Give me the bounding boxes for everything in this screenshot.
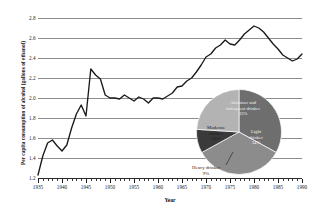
x-axis-major-tick xyxy=(134,179,135,183)
x-axis-minor-tick xyxy=(144,179,145,181)
x-axis-minor-tick xyxy=(168,179,169,181)
x-axis-minor-tick xyxy=(187,179,188,181)
pie-label-heavy-pct: 9% xyxy=(203,171,210,176)
x-axis-minor-tick xyxy=(120,179,121,181)
x-axis-tick-label: 1950 xyxy=(105,184,115,190)
y-axis-tick-label: 2.8 xyxy=(29,15,35,21)
x-axis-minor-tick xyxy=(52,179,53,181)
y-axis-tick-label: 2.6 xyxy=(29,35,35,41)
x-axis-minor-tick xyxy=(100,179,101,181)
x-axis-major-tick xyxy=(302,179,303,183)
x-axis-minor-tick xyxy=(105,179,106,181)
x-axis-minor-tick xyxy=(192,179,193,181)
x-axis-minor-tick xyxy=(297,179,298,181)
x-axis-minor-tick xyxy=(76,179,77,181)
x-axis-tick-label: 1940 xyxy=(57,184,67,190)
x-axis-minor-tick xyxy=(129,179,130,181)
x-axis-minor-tick xyxy=(172,179,173,181)
x-axis-minor-tick xyxy=(177,179,178,181)
pie-label-heavy-drinker: Heavy drinker 9% xyxy=(174,165,238,177)
x-axis-minor-tick xyxy=(81,179,82,181)
y-axis-tick-label: 1.6 xyxy=(29,135,35,141)
x-axis-major-tick xyxy=(158,179,159,183)
x-axis-minor-tick xyxy=(283,179,284,181)
x-axis-minor-tick xyxy=(124,179,125,181)
x-axis-minor-tick xyxy=(96,179,97,181)
x-axis-minor-tick xyxy=(91,179,92,181)
x-axis-major-tick xyxy=(86,179,87,183)
x-axis-tick-label: 1990 xyxy=(297,184,307,190)
y-axis-tick-label: 2.0 xyxy=(29,95,35,101)
x-axis-tick-label: 1935 xyxy=(33,184,43,190)
x-axis-major-tick xyxy=(62,179,63,183)
x-axis-tick-label: 1945 xyxy=(81,184,91,190)
y-axis-tick-label: 2.2 xyxy=(29,75,35,81)
x-axis-major-tick xyxy=(38,179,39,183)
x-axis-minor-tick xyxy=(48,179,49,181)
figure-line-and-pie-chart: Per capita consumption of alcohol (gallo… xyxy=(0,0,315,216)
x-axis-major-tick xyxy=(182,179,183,183)
x-axis-minor-tick xyxy=(72,179,73,181)
x-axis-minor-tick xyxy=(67,179,68,181)
x-axis-tick-label: 1955 xyxy=(129,184,139,190)
x-axis-minor-tick xyxy=(115,179,116,181)
pie-label-heavy-line1: Heavy drinker xyxy=(192,165,220,170)
y-axis-tick-label: 1.2 xyxy=(29,175,35,181)
x-axis-tick-label: 1965 xyxy=(177,184,187,190)
x-axis-minor-tick xyxy=(57,179,58,181)
x-axis-minor-tick xyxy=(288,179,289,181)
y-axis-tick-label: 2.4 xyxy=(29,55,35,61)
x-axis-tick-label: 1960 xyxy=(153,184,163,190)
pie-chart-drinker-categories: Abstainer and infrequent drinker 33% Lig… xyxy=(196,89,282,175)
y-axis-tick-label: 1.8 xyxy=(29,115,35,121)
x-axis-minor-tick xyxy=(292,179,293,181)
pie-leader-line-heavy xyxy=(196,89,282,199)
x-axis-minor-tick xyxy=(153,179,154,181)
x-axis-minor-tick xyxy=(163,179,164,181)
x-axis-minor-tick xyxy=(148,179,149,181)
x-axis-major-tick xyxy=(110,179,111,183)
y-axis-tick-label: 1.4 xyxy=(29,155,35,161)
y-axis-title: Per capita consumption of alcohol (gallo… xyxy=(20,18,26,188)
x-axis-minor-tick xyxy=(139,179,140,181)
x-axis-minor-tick xyxy=(43,179,44,181)
